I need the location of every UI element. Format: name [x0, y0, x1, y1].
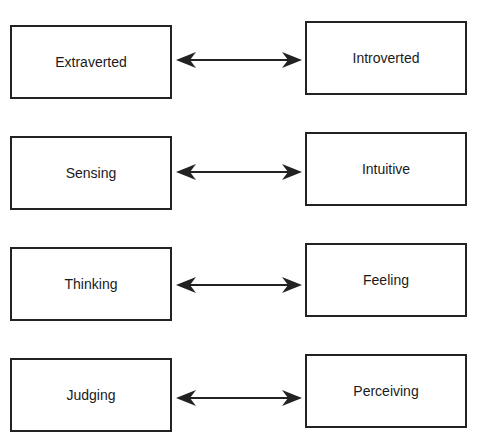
box-label: Thinking: [65, 276, 118, 292]
box-introverted: Introverted: [305, 21, 467, 95]
double-arrow-icon: [174, 275, 304, 295]
box-label: Intuitive: [362, 161, 410, 177]
box-label: Introverted: [353, 50, 420, 66]
box-thinking: Thinking: [10, 247, 172, 321]
box-sensing: Sensing: [10, 136, 172, 210]
double-arrow-icon: [174, 162, 304, 182]
box-feeling: Feeling: [305, 243, 467, 317]
box-label: Perceiving: [353, 383, 418, 399]
box-label: Extraverted: [55, 54, 127, 70]
box-label: Sensing: [66, 165, 117, 181]
box-label: Feeling: [363, 272, 409, 288]
box-perceiving: Perceiving: [305, 354, 467, 428]
double-arrow-icon: [174, 388, 304, 408]
box-extraverted: Extraverted: [10, 25, 172, 99]
box-label: Judging: [66, 387, 115, 403]
box-intuitive: Intuitive: [305, 132, 467, 206]
double-arrow-icon: [174, 50, 304, 70]
box-judging: Judging: [10, 358, 172, 432]
